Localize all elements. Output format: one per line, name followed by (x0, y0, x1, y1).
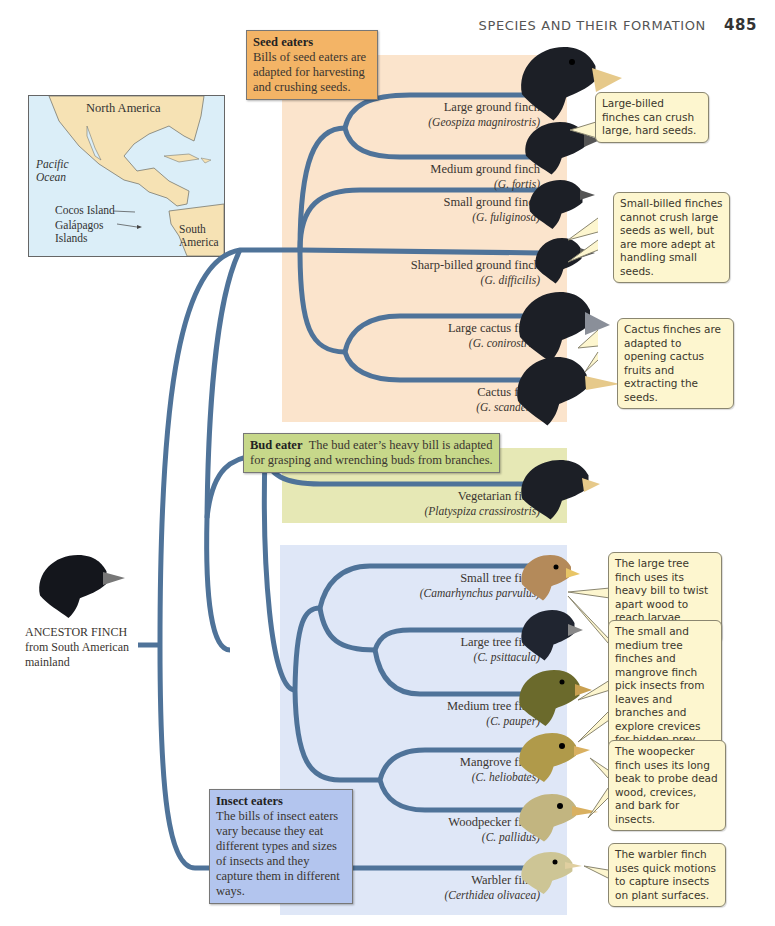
callout-woodpecker-finch: The woopecker finch uses its long beak t… (608, 740, 726, 831)
finch-head-warbler-icon (521, 852, 582, 894)
finch-head-sharp-billed-icon (535, 238, 595, 284)
callout-small-medium-tree-finches: The small and medium tree finches and ma… (608, 620, 722, 752)
ancestor-finch-head-icon (39, 555, 125, 618)
finch-head-small-ground-icon (529, 180, 595, 229)
callout-small-billed: Small-billed finches cannot crush large … (613, 192, 730, 283)
finch-head-small-tree-icon (521, 555, 580, 601)
finch-head-large-tree-icon (521, 610, 583, 660)
finch-head-cactus-icon (517, 357, 620, 426)
callout-large-billed: Large-billed finches can crush large, ha… (595, 92, 709, 143)
finch-head-vegetarian-icon (521, 460, 600, 520)
ancestor-finch-label: ANCESTOR FINCH from South American mainl… (25, 625, 129, 670)
ancestor-origin: from South American (25, 640, 129, 655)
finch-head-woodpecker-icon (519, 794, 598, 842)
ancestor-origin-cont: mainland (25, 655, 129, 670)
callout-warbler-finch: The warbler finch uses quick motions to … (608, 843, 726, 907)
finch-head-large-cactus-icon (519, 292, 610, 362)
callout-cactus-finches: Cactus finches are adapted to opening ca… (617, 318, 734, 409)
ancestor-title: ANCESTOR FINCH (25, 625, 129, 640)
